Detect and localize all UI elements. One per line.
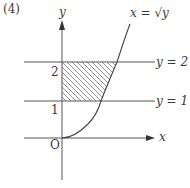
- y-axis-arrow-icon: [59, 20, 65, 30]
- tick-label-2: 2: [51, 66, 59, 78]
- problem-label: (4): [3, 3, 20, 15]
- x-axis-arrow-icon: [146, 135, 155, 141]
- origin-label: O: [50, 139, 60, 151]
- x-axis-label: x: [159, 131, 166, 143]
- line-label-y-equals-1: y = 1: [156, 95, 188, 107]
- line-label-y-equals-2: y = 2: [156, 56, 188, 68]
- tick-label-1: 1: [51, 104, 59, 116]
- curve-label: x = √y: [130, 7, 169, 19]
- shaded-region: [0, 40, 185, 120]
- y-axis-label: y: [59, 6, 66, 18]
